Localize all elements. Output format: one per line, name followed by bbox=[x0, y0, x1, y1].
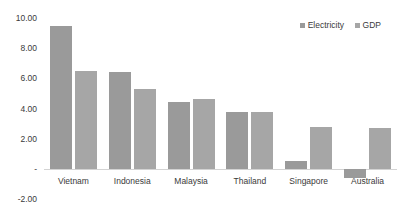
y-axis-tick-label: 10.00 bbox=[16, 14, 37, 23]
bar-group: Singapore bbox=[279, 0, 338, 213]
bar-electricity-thailand[interactable] bbox=[226, 112, 248, 169]
bar-group: Australia bbox=[338, 0, 397, 213]
bar-electricity-indonesia[interactable] bbox=[109, 72, 131, 169]
x-axis-category-label: Vietnam bbox=[44, 177, 103, 186]
bar-chart: Electricity GDP 10.008.006.004.002.00--2… bbox=[0, 0, 399, 213]
y-axis-tick-label: 6.00 bbox=[20, 74, 37, 83]
x-axis-category-label: Indonesia bbox=[103, 177, 162, 186]
bar-gdp-malaysia[interactable] bbox=[193, 99, 215, 168]
bar-group: Thailand bbox=[220, 0, 279, 213]
bar-gdp-indonesia[interactable] bbox=[134, 89, 156, 169]
bar-electricity-malaysia[interactable] bbox=[168, 102, 190, 168]
bar-gdp-thailand[interactable] bbox=[251, 112, 273, 169]
y-axis-tick-label: - bbox=[34, 165, 37, 174]
y-axis: 10.008.006.004.002.00--2.00 bbox=[0, 0, 42, 213]
bar-groups: VietnamIndonesiaMalaysiaThailandSingapor… bbox=[44, 0, 397, 213]
bar-gdp-australia[interactable] bbox=[369, 128, 391, 169]
y-axis-tick-label: 2.00 bbox=[20, 134, 37, 143]
x-axis-category-label: Singapore bbox=[279, 177, 338, 186]
bar-group: Malaysia bbox=[162, 0, 221, 213]
bar-gdp-singapore[interactable] bbox=[310, 127, 332, 169]
y-axis-tick-label: 4.00 bbox=[20, 104, 37, 113]
bar-gdp-vietnam[interactable] bbox=[75, 71, 97, 169]
bar-electricity-singapore[interactable] bbox=[285, 161, 307, 169]
bar-group: Indonesia bbox=[103, 0, 162, 213]
y-axis-tick-label: 8.00 bbox=[20, 44, 37, 53]
x-axis-category-label: Australia bbox=[338, 177, 397, 186]
bar-group: Vietnam bbox=[44, 0, 103, 213]
x-axis-category-label: Malaysia bbox=[162, 177, 221, 186]
bar-electricity-vietnam[interactable] bbox=[50, 26, 72, 169]
y-axis-tick-label: -2.00 bbox=[18, 195, 37, 204]
x-axis-category-label: Thailand bbox=[220, 177, 279, 186]
plot-area: VietnamIndonesiaMalaysiaThailandSingapor… bbox=[44, 0, 397, 213]
